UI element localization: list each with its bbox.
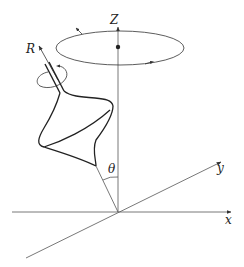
theta-label: θ <box>108 162 116 176</box>
spinning-top-diagram: x y Z R θ <box>0 0 244 267</box>
x-axis-label: x <box>225 213 232 227</box>
theta-arc <box>103 177 118 180</box>
y-axis-label: y <box>216 161 224 175</box>
center-of-mass-dot <box>116 45 120 49</box>
spinning-top-body <box>39 91 113 166</box>
y-axis <box>26 162 221 258</box>
precession-arrow-top <box>77 29 82 34</box>
precession-ellipse <box>56 31 184 65</box>
z-axis-label: Z <box>109 13 119 27</box>
spin-axis-label: R <box>25 42 35 56</box>
